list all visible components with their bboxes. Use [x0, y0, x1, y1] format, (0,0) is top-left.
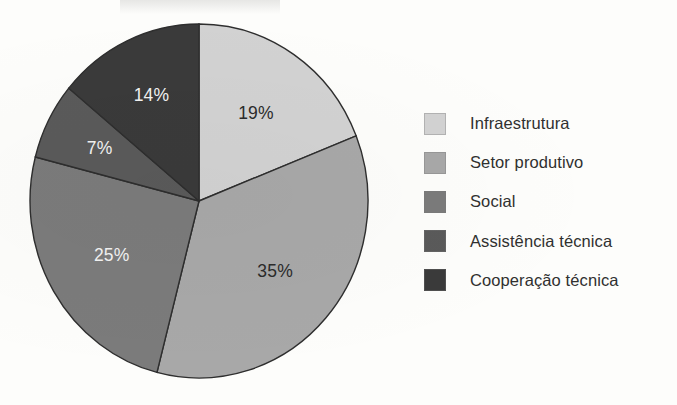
pie-svg: 19%35%25%7%14% — [0, 0, 405, 405]
pie-slice-label-assistencia-tecnica: 7% — [87, 138, 113, 158]
legend-item[interactable]: Assistência técnica — [424, 222, 674, 261]
pie-slice-label-cooperacao-tecnica: 14% — [134, 85, 170, 105]
legend-swatch-cooperacao-tecnica — [424, 269, 446, 291]
pie-chart-figure: 19%35%25%7%14% Infraestrutura Setor prod… — [0, 0, 677, 405]
legend-swatch-setor-produtivo — [424, 152, 446, 174]
legend-swatch-assistencia-tecnica — [424, 230, 446, 252]
legend-item[interactable]: Setor produtivo — [424, 143, 674, 182]
legend-label-setor-produtivo: Setor produtivo — [470, 153, 583, 172]
legend-label-infraestrutura: Infraestrutura — [470, 114, 570, 133]
legend-item[interactable]: Social — [424, 182, 674, 221]
legend-label-cooperacao-tecnica: Cooperação técnica — [470, 271, 619, 290]
pie-slice-label-social: 25% — [94, 245, 130, 265]
pie-chart-plot-area: 19%35%25%7%14% — [0, 0, 405, 405]
legend-label-assistencia-tecnica: Assistência técnica — [470, 232, 612, 251]
legend-item[interactable]: Cooperação técnica — [424, 261, 674, 300]
legend: Infraestrutura Setor produtivo Social As… — [424, 104, 674, 300]
legend-label-social: Social — [470, 192, 516, 211]
legend-swatch-infraestrutura — [424, 113, 446, 135]
pie-slice-label-setor-produtivo: 35% — [257, 261, 293, 281]
legend-item[interactable]: Infraestrutura — [424, 104, 674, 143]
pie-slice-group — [30, 24, 368, 378]
legend-swatch-social — [424, 191, 446, 213]
pie-slice-label-infraestrutura: 19% — [238, 103, 274, 123]
